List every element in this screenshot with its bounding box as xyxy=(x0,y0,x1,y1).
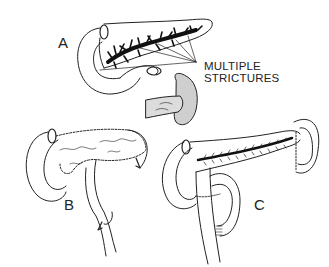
stricture-annotation: MULTIPLE STRICTURES xyxy=(204,60,279,84)
panel-b-anastomosis xyxy=(26,129,147,256)
center-shaded-organ xyxy=(146,73,197,124)
panel-label-b: B xyxy=(64,196,74,213)
panel-c-longitudinal xyxy=(162,119,318,264)
annotation-line-2: STRICTURES xyxy=(204,72,279,84)
annotation-line-1: MULTIPLE xyxy=(204,60,279,72)
diagram-drawing xyxy=(0,0,329,267)
diagram-canvas: A B C MULTIPLE STRICTURES xyxy=(0,0,329,267)
panel-label-c: C xyxy=(254,196,265,213)
panel-label-a: A xyxy=(58,34,68,51)
